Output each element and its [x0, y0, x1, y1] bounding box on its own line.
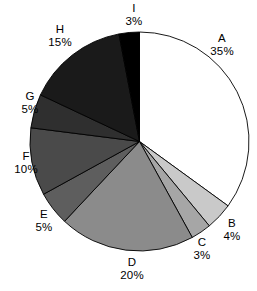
pie-label-a-value: 35% — [198, 45, 246, 58]
pie-label-b-value: 4% — [212, 230, 252, 243]
pie-label-h: H 15% — [36, 23, 84, 49]
pie-label-c-value: 3% — [182, 249, 222, 262]
pie-label-i-value: 3% — [110, 15, 158, 28]
pie-label-h-value: 15% — [36, 36, 84, 49]
pie-label-g-value: 5% — [8, 103, 52, 116]
pie-label-e-name: E — [22, 208, 66, 221]
pie-label-b-name: B — [212, 217, 252, 230]
pie-label-g-name: G — [8, 90, 52, 103]
pie-label-g: G 5% — [8, 90, 52, 116]
pie-label-b: B 4% — [212, 217, 252, 243]
pie-chart: I 3% A 35% H 15% G 5% F 10% E 5% D 20% C… — [0, 0, 257, 291]
pie-label-e-value: 5% — [22, 221, 66, 234]
pie-label-a-name: A — [198, 32, 246, 45]
pie-label-i-name: I — [110, 2, 158, 15]
pie-label-f-value: 10% — [2, 163, 50, 176]
pie-label-e: E 5% — [22, 208, 66, 234]
pie-label-f-name: F — [2, 150, 50, 163]
pie-label-a: A 35% — [198, 32, 246, 58]
pie-label-d-value: 20% — [108, 269, 156, 282]
pie-label-d-name: D — [108, 256, 156, 269]
pie-label-d: D 20% — [108, 256, 156, 282]
pie-label-i: I 3% — [110, 2, 158, 28]
pie-label-h-name: H — [36, 23, 84, 36]
pie-label-f: F 10% — [2, 150, 50, 176]
